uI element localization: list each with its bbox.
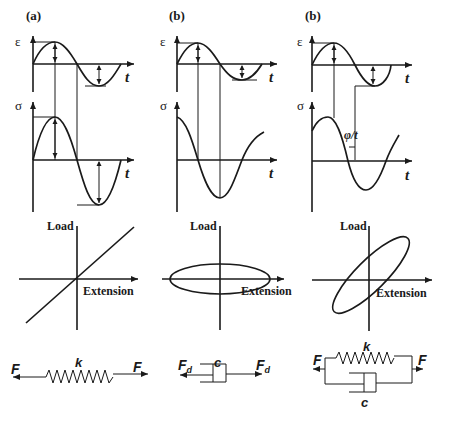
stress-symbol: σ <box>297 98 304 113</box>
time-label: t <box>125 69 130 85</box>
load-extension-line <box>26 227 134 323</box>
panel-label-a: (a) <box>26 8 41 23</box>
force-label-left: F <box>313 352 322 368</box>
strain-symbol: ε <box>15 34 21 49</box>
hysteresis-ellipse <box>324 228 419 323</box>
strain-symbol: ε <box>160 34 166 49</box>
force-label-left: F <box>11 361 20 377</box>
column-a: (a) ε t σ t <box>11 8 148 383</box>
strain-plot-b: ε t <box>160 34 277 92</box>
time-label: t <box>269 69 274 85</box>
force-label-right: F <box>133 359 142 375</box>
load-label: Load <box>190 219 217 233</box>
strain-plot-a: ε t <box>15 34 134 92</box>
spring-model: k F F <box>11 355 148 383</box>
stress-symbol: σ <box>15 98 22 113</box>
extension-label: Extension <box>376 286 427 300</box>
time-label: t <box>405 70 410 86</box>
load-label: Load <box>47 219 74 233</box>
strain-plot-c: ε t <box>297 34 412 92</box>
load-label: Load <box>340 219 367 233</box>
load-extension-plot-b: Load Extension <box>162 219 292 330</box>
load-extension-plot-a: Load Extension <box>19 219 138 330</box>
stress-symbol: σ <box>160 98 167 113</box>
spring-constant-label: k <box>363 339 371 354</box>
dashpot-constant-label: c <box>361 395 369 410</box>
stress-plot-a: σ t <box>15 98 134 212</box>
extension-label: Extension <box>83 284 134 298</box>
dashpot-model: c Fd Fd <box>178 355 271 382</box>
time-label: t <box>269 165 274 181</box>
panel-label-b: (b) <box>169 8 185 23</box>
panel-label-c: (b) <box>305 8 321 23</box>
column-c: (b) ε t σ t φ/t Load Extensi <box>297 8 432 410</box>
spring-constant-label: k <box>75 355 83 370</box>
dashpot-constant-label: c <box>214 355 222 370</box>
force-label-right: F <box>418 352 427 368</box>
force-label-left: Fd <box>178 357 193 375</box>
kelvin-voigt-model: k F F c <box>313 339 427 410</box>
stress-plot-b: σ t <box>160 98 277 212</box>
column-b: (b) ε t σ t Load Extension <box>160 8 292 382</box>
strain-symbol: ε <box>297 34 303 49</box>
spring <box>46 370 113 383</box>
phase-label: φ/t <box>344 128 358 142</box>
time-label: t <box>125 165 130 181</box>
force-label-right: Fd <box>256 357 271 375</box>
time-label: t <box>405 167 410 183</box>
load-extension-plot-c: Load Extension <box>312 219 432 331</box>
viscoelasticity-figure: (a) ε t σ t <box>0 0 449 421</box>
